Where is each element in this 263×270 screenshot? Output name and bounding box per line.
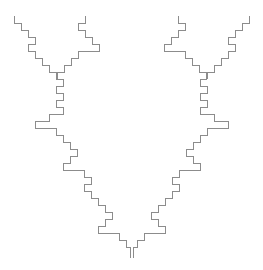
fractal-curve-figure bbox=[0, 0, 263, 270]
fractal-canvas-frame bbox=[0, 0, 263, 270]
canvas-background bbox=[0, 0, 263, 270]
